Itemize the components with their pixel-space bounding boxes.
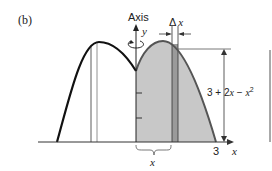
delta-x-strip xyxy=(172,44,178,142)
height-arrow-down-icon xyxy=(221,136,227,142)
axis-arrow-icon xyxy=(133,24,139,31)
height-arrow-up-icon xyxy=(221,49,227,55)
axis-variable-label: y xyxy=(141,25,147,37)
panel-label: (b) xyxy=(18,13,32,27)
x-axis-label: x xyxy=(231,145,237,157)
x-tick-label: 3 xyxy=(213,145,219,157)
delta-x-arrow-icon xyxy=(166,32,172,36)
brace-label: x xyxy=(149,156,155,168)
solid-of-revolution-diagram: (b) Axis y Δx 3 + 2x − x2 3 x x xyxy=(0,0,272,171)
left-curve xyxy=(57,42,136,142)
height-expression: 3 + 2x − x2 xyxy=(207,86,254,98)
delta-x-label: Δx xyxy=(169,16,183,28)
delta-x-arrow-icon xyxy=(178,32,184,36)
axis-label: Axis xyxy=(128,11,149,23)
x-brace xyxy=(136,145,171,155)
